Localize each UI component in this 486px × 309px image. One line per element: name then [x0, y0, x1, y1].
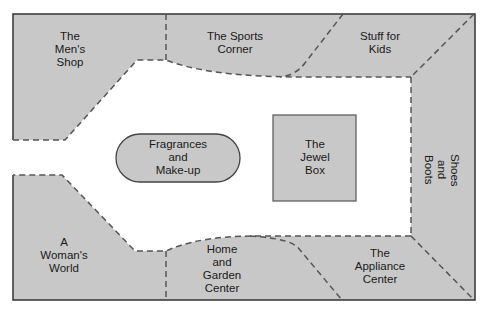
label-womans-world: A Woman's World [28, 236, 100, 275]
label-stuff-for-kids: Stuff for Kids [345, 30, 415, 56]
label-home-and-garden: Home and Garden Center [190, 243, 254, 295]
label-shoes-and-boots: Shoes and Boots [422, 140, 461, 200]
label-sports-corner: The Sports Corner [195, 30, 275, 56]
label-appliance-center: The Appliance Center [345, 247, 415, 286]
label-fragrances: Fragrances and Make-up [136, 138, 220, 177]
label-jewel-box: The Jewel Box [280, 138, 350, 177]
label-mens-shop: The Men's Shop [40, 30, 100, 69]
